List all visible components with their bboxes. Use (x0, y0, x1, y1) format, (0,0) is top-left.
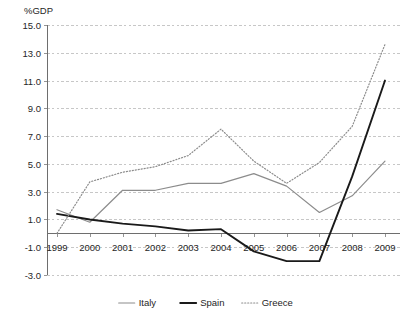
y-axis-tick-label: 15.0 (23, 20, 42, 31)
x-axis-tick-label: 2001 (112, 242, 133, 253)
y-axis-tick-label: 3.0 (28, 187, 41, 198)
x-axis-tick-label: 2000 (79, 242, 100, 253)
x-axis-tick-label: 2004 (210, 242, 231, 253)
legend-label: Greece (262, 297, 293, 308)
y-axis-title: %GDP (24, 5, 53, 16)
series-line-greece (57, 44, 385, 233)
x-axis-tick-labels: 1999200020012002200320042005200620072008… (46, 242, 395, 253)
y-axis-tick-label: 1.0 (28, 214, 41, 225)
x-axis-tick-label: 2009 (374, 242, 395, 253)
series-line-spain (57, 81, 385, 262)
x-axis-tick-label: 2006 (276, 242, 297, 253)
legend-item-italy[interactable]: Italy (119, 297, 157, 308)
x-axis-tick-label: 2002 (145, 242, 166, 253)
x-axis-tick-label: 1999 (46, 242, 67, 253)
x-axis-tick-label: 2003 (178, 242, 199, 253)
axis-group (44, 25, 400, 276)
legend-item-spain[interactable]: Spain (180, 297, 224, 308)
y-axis-tick-label: 13.0 (23, 48, 42, 59)
y-axis-tick-label: -3.0 (25, 270, 41, 281)
y-axis-tick-label: 11.0 (23, 76, 41, 87)
series-line-italy (57, 161, 385, 222)
gridlines-group (47, 26, 400, 276)
y-axis-tick-label: 5.0 (28, 159, 41, 170)
legend-label: Italy (139, 297, 157, 308)
line-chart: 15.013.011.09.07.05.03.01.0-1.0-3.0 1999… (0, 0, 411, 320)
data-series-group (57, 44, 385, 261)
chart-legend: ItalySpainGreece (119, 297, 293, 308)
x-axis-tick-label: 2008 (342, 242, 363, 253)
y-axis-tick-label: 7.0 (28, 131, 41, 142)
legend-label: Spain (200, 297, 224, 308)
y-axis-tick-labels: 15.013.011.09.07.05.03.01.0-1.0-3.0 (23, 20, 42, 281)
y-axis-tick-label: 9.0 (28, 103, 41, 114)
y-axis-tick-label: -1.0 (25, 242, 41, 253)
legend-item-greece[interactable]: Greece (242, 297, 293, 308)
chart-container: 15.013.011.09.07.05.03.01.0-1.0-3.0 1999… (0, 0, 411, 320)
